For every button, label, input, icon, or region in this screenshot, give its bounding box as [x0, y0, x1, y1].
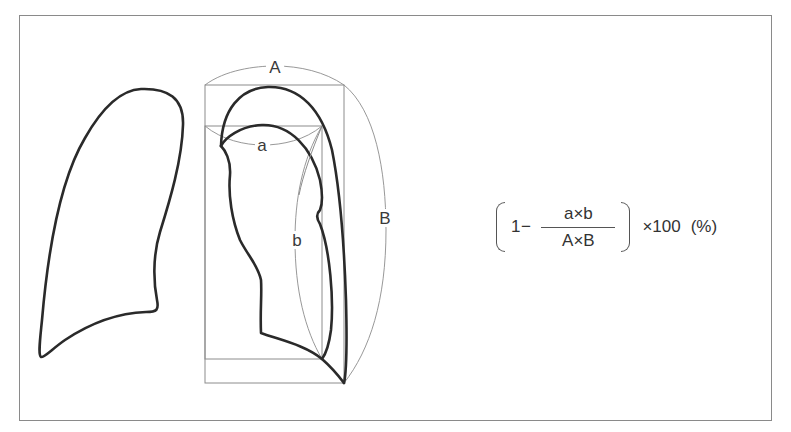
lateral-lung-anterior-border	[221, 146, 344, 383]
label-inner-width: a	[257, 136, 267, 155]
arc-b-outer-height	[344, 85, 386, 383]
lateral-lung-inner-outline	[221, 125, 332, 359]
label-outer-width: A	[269, 58, 281, 77]
left-bracket	[496, 202, 505, 252]
left-lung-outline	[39, 89, 183, 357]
inner-diagonal-line	[299, 126, 322, 195]
formula-denominator: A×B	[562, 228, 595, 251]
ratio-formula: 1− a×b A×B ×100 (%)	[496, 198, 717, 256]
label-outer-height: B	[379, 209, 390, 228]
formula-prefix: 1−	[511, 217, 531, 237]
label-inner-height: b	[292, 231, 301, 250]
right-bracket	[621, 202, 630, 252]
formula-fraction: a×b A×B	[541, 204, 615, 251]
formula-numerator: a×b	[564, 204, 593, 227]
formula-multiplier: ×100	[642, 217, 680, 237]
formula-unit: (%)	[691, 217, 717, 237]
